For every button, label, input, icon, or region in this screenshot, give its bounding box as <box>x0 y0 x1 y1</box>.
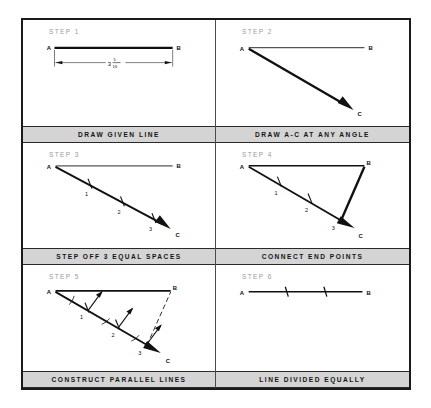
dimension-denominator: 16 <box>113 64 118 69</box>
caption-text-2: DRAW A-C AT ANY ANGLE <box>255 131 370 138</box>
line-ac <box>249 49 346 105</box>
drawing-step-4: 1 2 3 A B C <box>216 143 409 266</box>
tick-label-1: 1 <box>85 191 88 197</box>
drawing-step-2: A B C <box>216 20 409 143</box>
caption-text-4: CONNECT END POINTS <box>262 253 364 260</box>
label-point-c: C <box>176 231 181 237</box>
caption-bar-6: LINE DIVIDED EQUALLY <box>216 371 409 388</box>
caption-text-5: CONSTRUCT PARALLEL LINES <box>51 376 186 383</box>
line-ac <box>55 167 162 224</box>
panel-step-5: STEP 5 1 <box>23 265 216 388</box>
parallel-arrow-1 <box>96 291 103 298</box>
label-point-a: A <box>47 289 52 295</box>
drawing-step-6: A B <box>216 265 409 388</box>
caption-bar-2: DRAW A-C AT ANY ANGLE <box>216 126 409 143</box>
dimension-arrow-right <box>165 61 172 64</box>
tick-label-3: 3 <box>332 225 335 231</box>
caption-text-3: STEP OFF 3 EQUAL SPACES <box>56 253 181 260</box>
caption-text-6: LINE DIVIDED EQUALLY <box>259 376 365 383</box>
label-point-c: C <box>358 111 363 117</box>
tick-label-3: 3 <box>138 350 141 356</box>
arrowhead-c <box>143 341 161 353</box>
panel-step-6: STEP 6 A B LINE DIVIDED EQUALLY <box>216 265 409 388</box>
caption-text-1: DRAW GIVEN LINE <box>78 131 160 138</box>
line-ac <box>249 166 341 219</box>
label-point-a: A <box>240 290 245 296</box>
drawing-step-1: A B 3 5 16 <box>23 20 215 143</box>
label-point-c: C <box>359 233 364 239</box>
caption-bar-5: CONSTRUCT PARALLEL LINES <box>23 371 215 388</box>
dimension-numerator: 5 <box>114 57 117 62</box>
caption-bar-1: DRAW GIVEN LINE <box>23 126 215 143</box>
label-point-b: B <box>177 45 181 51</box>
line-b-to-3 <box>341 166 365 220</box>
parallel-arrow-3 <box>155 325 162 332</box>
figure-frame: STEP 1 A B 3 5 16 <box>21 18 411 390</box>
tick-label-1: 1 <box>274 190 277 196</box>
panel-step-3: STEP 3 1 2 3 A B C STEP OFF 3 EQUAL SPAC… <box>23 143 216 266</box>
drawing-step-3: 1 2 3 A B C <box>23 143 215 266</box>
label-point-a: A <box>47 45 52 51</box>
caption-bar-3: STEP OFF 3 EQUAL SPACES <box>23 248 215 265</box>
line-ac <box>55 292 147 345</box>
arrowhead-c <box>338 96 354 110</box>
panel-step-1: STEP 1 A B 3 5 16 <box>23 20 216 143</box>
label-point-a: A <box>240 163 245 169</box>
panel-step-2: STEP 2 A B C DRAW A-C AT ANY ANGLE <box>216 20 409 143</box>
construction-line-3-to-b <box>147 292 171 345</box>
parallel-arrow-2 <box>126 308 133 315</box>
label-point-b: B <box>173 285 177 291</box>
caption-bar-4: CONNECT END POINTS <box>216 248 409 265</box>
arrowhead-c <box>155 215 171 229</box>
label-point-a: A <box>240 46 245 52</box>
drawing-step-5: 1 2 3 A B C <box>23 265 215 388</box>
tick-label-2: 2 <box>305 207 308 213</box>
arrowhead-c <box>337 216 355 228</box>
label-point-b: B <box>177 163 181 169</box>
tick-label-2: 2 <box>118 209 121 215</box>
tick-label-1: 1 <box>80 315 83 321</box>
label-point-b: B <box>366 159 370 165</box>
panel-grid: STEP 1 A B 3 5 16 <box>23 20 409 388</box>
tick-label-3: 3 <box>149 226 152 232</box>
label-point-a: A <box>47 164 52 170</box>
dimension-whole: 3 <box>108 61 112 67</box>
tick-label-2: 2 <box>112 332 115 338</box>
label-point-b: B <box>366 290 370 296</box>
label-point-c: C <box>166 358 171 364</box>
label-point-b: B <box>368 45 372 51</box>
dimension-arrow-left <box>55 61 62 64</box>
panel-step-4: STEP 4 1 2 3 A B C CONNECT END POINTS <box>216 143 409 266</box>
